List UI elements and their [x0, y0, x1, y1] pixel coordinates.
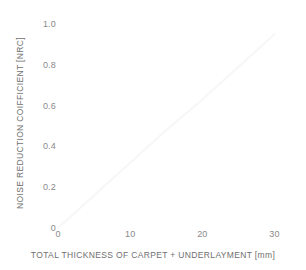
- data-series-line: [58, 34, 275, 228]
- x-axis-title: TOTAL THICKNESS OF CARPET + UNDERLAYMENT…: [0, 250, 306, 260]
- x-tick-label: 20: [187, 229, 217, 239]
- chart-figure: NOISE REDUCTION COIFFICIENT [NRC] 00.20.…: [0, 0, 306, 270]
- plot-area: [58, 24, 289, 228]
- plot-svg: [58, 24, 289, 228]
- x-tick-label: 0: [43, 229, 73, 239]
- x-tick-label: 10: [115, 229, 145, 239]
- x-tick-label: 30: [260, 229, 290, 239]
